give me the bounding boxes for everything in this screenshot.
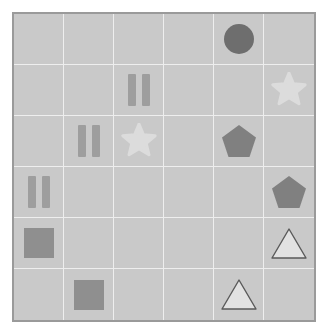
cell-r3c5[interactable] [214, 116, 264, 167]
cell-r1c5[interactable] [214, 14, 264, 65]
cell-r1c3[interactable] [114, 14, 164, 65]
screenshot-root [0, 0, 328, 334]
cell-r1c4[interactable] [164, 14, 214, 65]
star-icon [270, 72, 308, 108]
cell-r5c4[interactable] [164, 218, 214, 269]
cell-r6c6[interactable] [264, 269, 314, 320]
cell-r6c3[interactable] [114, 269, 164, 320]
cell-r3c3[interactable] [114, 116, 164, 167]
cell-r6c1[interactable] [14, 269, 64, 320]
cell-r3c2[interactable] [64, 116, 114, 167]
cell-r5c6[interactable] [264, 218, 314, 269]
cell-r2c2[interactable] [64, 65, 114, 116]
cell-r1c2[interactable] [64, 14, 114, 65]
circle-icon [223, 23, 255, 55]
cell-r2c5[interactable] [214, 65, 264, 116]
cell-r4c6[interactable] [264, 167, 314, 218]
cell-r2c3[interactable] [114, 65, 164, 116]
triangle-icon [220, 278, 258, 311]
cell-r6c4[interactable] [164, 269, 214, 320]
cell-r5c5[interactable] [214, 218, 264, 269]
cell-r6c2[interactable] [64, 269, 114, 320]
bars-icon [126, 74, 152, 106]
star-icon [120, 123, 158, 159]
cell-r4c4[interactable] [164, 167, 214, 218]
cell-r4c2[interactable] [64, 167, 114, 218]
triangle-icon [270, 227, 308, 260]
cell-r5c3[interactable] [114, 218, 164, 269]
cell-r3c4[interactable] [164, 116, 214, 167]
bars-icon [76, 125, 102, 157]
shape-grid-board [12, 12, 316, 322]
bars-icon [26, 176, 52, 208]
cell-r4c1[interactable] [14, 167, 64, 218]
cell-r4c5[interactable] [214, 167, 264, 218]
cell-r1c6[interactable] [264, 14, 314, 65]
cell-r2c6[interactable] [264, 65, 314, 116]
pentagon-icon [271, 175, 307, 209]
square-icon [24, 228, 54, 258]
cell-r1c1[interactable] [14, 14, 64, 65]
square-icon [74, 280, 104, 310]
cell-r3c1[interactable] [14, 116, 64, 167]
grid-container [14, 14, 314, 320]
cell-r2c4[interactable] [164, 65, 214, 116]
cell-r5c2[interactable] [64, 218, 114, 269]
cell-r5c1[interactable] [14, 218, 64, 269]
cell-r4c3[interactable] [114, 167, 164, 218]
cell-r2c1[interactable] [14, 65, 64, 116]
cell-r3c6[interactable] [264, 116, 314, 167]
pentagon-icon [221, 124, 257, 158]
cell-r6c5[interactable] [214, 269, 264, 320]
